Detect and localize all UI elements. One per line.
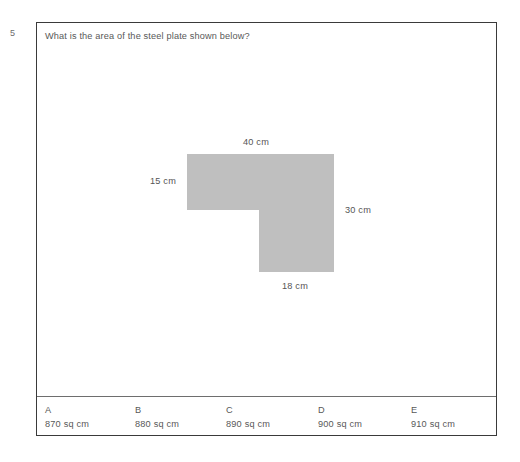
question-number: 5 bbox=[10, 28, 15, 38]
dimension-label-right: 30 cm bbox=[345, 205, 371, 215]
dimension-label-top: 40 cm bbox=[243, 137, 269, 147]
answer-value-a: 870 sq cm bbox=[45, 417, 89, 431]
answer-letter-b: B bbox=[135, 404, 179, 417]
answer-options: A 870 sq cm B 880 sq cm C 890 sq cm D 90… bbox=[37, 396, 496, 436]
plate-upper-rectangle bbox=[187, 154, 334, 210]
answer-option-b[interactable]: B 880 sq cm bbox=[135, 404, 179, 431]
answer-letter-e: E bbox=[411, 404, 455, 417]
answer-letter-c: C bbox=[226, 404, 270, 417]
answer-value-d: 900 sq cm bbox=[318, 417, 362, 431]
question-panel: What is the area of the steel plate show… bbox=[36, 22, 497, 436]
answer-option-c[interactable]: C 890 sq cm bbox=[226, 404, 270, 431]
steel-plate-shape bbox=[187, 154, 334, 272]
answer-option-d[interactable]: D 900 sq cm bbox=[318, 404, 362, 431]
answer-option-a[interactable]: A 870 sq cm bbox=[45, 404, 89, 431]
answer-option-e[interactable]: E 910 sq cm bbox=[411, 404, 455, 431]
plate-lower-rectangle bbox=[259, 210, 334, 272]
answer-letter-d: D bbox=[318, 404, 362, 417]
answer-value-e: 910 sq cm bbox=[411, 417, 455, 431]
dimension-label-left: 15 cm bbox=[150, 176, 176, 186]
steel-plate-figure: 40 cm 15 cm 30 cm 18 cm bbox=[37, 23, 498, 396]
dimension-label-bottom: 18 cm bbox=[282, 281, 308, 291]
answer-letter-a: A bbox=[45, 404, 89, 417]
answer-value-b: 880 sq cm bbox=[135, 417, 179, 431]
answer-value-c: 890 sq cm bbox=[226, 417, 270, 431]
question-page: 5 What is the area of the steel plate sh… bbox=[0, 0, 520, 462]
